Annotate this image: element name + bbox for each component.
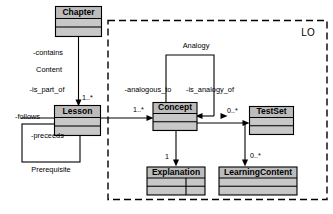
class-explanation-ops-hatch bbox=[148, 187, 204, 194]
class-learningcontent-ops-hatch bbox=[220, 187, 296, 194]
class-testset-ops-hatch bbox=[251, 127, 293, 134]
association-class-prerequisite-name: Prerequisite bbox=[31, 165, 70, 174]
role-label-is-analogy-of: -is_analogy_of bbox=[186, 85, 235, 94]
multiplicity-concept-explanation: 1 bbox=[165, 152, 169, 161]
arrowhead-lesson-concept bbox=[147, 115, 154, 121]
class-chapter[interactable]: Chapter bbox=[56, 7, 102, 37]
class-chapter-ops-hatch bbox=[57, 28, 101, 35]
arrowhead-concept-testset bbox=[243, 120, 250, 126]
multiplicity-concept-testset: 0..* bbox=[227, 106, 238, 115]
class-testset-name: TestSet bbox=[256, 106, 286, 116]
arrowhead-concept-explanation bbox=[173, 160, 179, 167]
arrowhead-testset-learningcontent bbox=[242, 160, 248, 167]
class-learningcontent[interactable]: LearningContent bbox=[219, 167, 297, 195]
class-explanation-attrs-hatch bbox=[148, 179, 204, 186]
class-explanation-name: Explanation bbox=[152, 167, 200, 177]
association-class-analogy-name: Analogy bbox=[183, 41, 210, 50]
class-chapter-attrs-hatch bbox=[57, 19, 101, 26]
class-concept[interactable]: Concept bbox=[153, 102, 197, 130]
class-learningcontent-name: LearningContent bbox=[224, 167, 292, 177]
role-label-preceeds: -preceeds bbox=[31, 131, 64, 140]
class-concept-attrs-hatch bbox=[154, 114, 196, 121]
uml-class-diagram: LO bbox=[0, 0, 333, 214]
class-lesson-attrs-hatch bbox=[56, 118, 100, 125]
class-learningcontent-attrs-hatch bbox=[220, 179, 296, 186]
class-lesson-name: Lesson bbox=[63, 106, 93, 116]
class-explanation[interactable]: Explanation bbox=[147, 167, 205, 195]
multiplicity-lesson-concept: 1..* bbox=[133, 105, 144, 114]
class-testset-attrs-hatch bbox=[251, 118, 293, 125]
association-class-content-name: Content bbox=[36, 65, 62, 74]
role-label-analogous-to: -analogous_to bbox=[125, 85, 172, 94]
role-label-contains: -contains bbox=[33, 48, 63, 57]
role-label-is-part-of: -is_part_of bbox=[30, 85, 66, 94]
class-chapter-name: Chapter bbox=[62, 7, 95, 17]
diagram-canvas: LO bbox=[0, 0, 333, 214]
multiplicity-chapter-lesson: 1..* bbox=[82, 93, 93, 102]
multiplicity-testset-learningcontent: 0..* bbox=[250, 151, 261, 160]
class-concept-name: Concept bbox=[158, 102, 192, 112]
class-concept-ops-hatch bbox=[154, 123, 196, 130]
class-testset[interactable]: TestSet bbox=[250, 106, 294, 134]
role-label-follows: -follows bbox=[15, 112, 40, 121]
package-lo-label: LO bbox=[301, 27, 315, 38]
